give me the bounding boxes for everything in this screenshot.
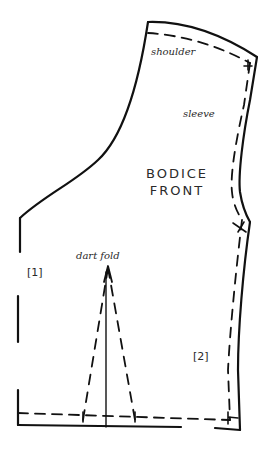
- waist-seam-line: [18, 413, 230, 420]
- underarm-notch: [233, 222, 246, 232]
- pattern-title: BODICE FRONT: [127, 165, 227, 199]
- dart-fold-label: dart fold: [76, 250, 120, 261]
- waist-cut-line-left: [18, 425, 181, 427]
- side-seam-cut-line: [238, 222, 250, 430]
- dart-leg-left: [83, 268, 108, 420]
- shoulder-notch: [244, 60, 252, 70]
- sleeve-label: sleeve: [183, 108, 215, 119]
- dart-leg-right: [108, 268, 135, 420]
- armhole-cut-line: [240, 57, 257, 222]
- bodice-front-pattern: [0, 0, 273, 454]
- dart-apex-arrow: [104, 266, 112, 282]
- pattern-title-line2: FRONT: [127, 182, 227, 199]
- marker-1-label: [1]: [27, 266, 43, 279]
- pattern-title-line1: BODICE: [127, 165, 227, 182]
- waist-cut-line-right: [215, 428, 240, 430]
- shoulder-label: shoulder: [151, 46, 195, 57]
- marker-2-label: [2]: [193, 350, 209, 363]
